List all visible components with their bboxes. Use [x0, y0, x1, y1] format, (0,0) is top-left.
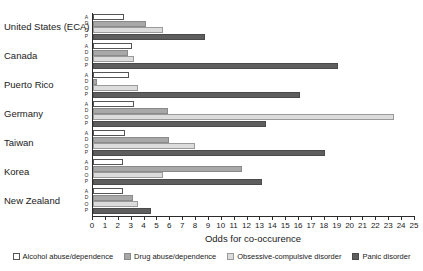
bar-row [93, 21, 415, 27]
subcategory-label-o: O [82, 85, 91, 91]
bar-row [93, 114, 415, 120]
bar [93, 92, 300, 98]
bar-row [93, 101, 415, 107]
x-tick [208, 216, 209, 220]
x-tick [285, 216, 286, 220]
bar-row [93, 43, 415, 49]
x-tick [234, 216, 235, 220]
x-tick [362, 216, 363, 220]
x-tick [195, 216, 196, 220]
subcategory-label-a: A [82, 72, 91, 78]
bar [93, 34, 205, 40]
subcategory-label-o: O [82, 56, 91, 62]
bar-row [93, 85, 415, 91]
x-tick [298, 216, 299, 220]
bar [93, 201, 138, 207]
x-tick [247, 216, 248, 220]
bar-row [93, 34, 415, 40]
subcategory-label-p: P [82, 149, 91, 155]
subcategory-label-d: D [82, 194, 91, 200]
bar-row [93, 56, 415, 62]
bar-row [93, 137, 415, 143]
bar [93, 63, 338, 69]
bar [93, 143, 195, 149]
bar-row [93, 159, 415, 165]
legend-label: Alcohol abuse/dependence [23, 252, 114, 261]
subcategory-label-a: A [82, 130, 91, 136]
subcategory-label-o: O [82, 27, 91, 33]
bar-row [93, 166, 415, 172]
bar-row [93, 195, 415, 201]
subcategory-label-a: A [82, 101, 91, 107]
category-label: Taiwan [4, 137, 90, 148]
bar [93, 121, 266, 127]
x-tick [182, 216, 183, 220]
subcategory-label-d: D [82, 20, 91, 26]
bar [93, 72, 129, 78]
subcategory-label-o: O [82, 114, 91, 120]
bar-row [93, 72, 415, 78]
legend-swatch-icon [227, 253, 234, 260]
bar [93, 27, 163, 33]
legend-item: Drug abuse/dependence [124, 252, 216, 261]
bar [93, 208, 151, 214]
legend-item: Alcohol abuse/dependence [13, 252, 114, 261]
subcategory-label-d: D [82, 136, 91, 142]
x-tick [221, 216, 222, 220]
bar [93, 150, 325, 156]
x-tick [401, 216, 402, 220]
legend-item: Panic disorder [352, 252, 410, 261]
x-tick [259, 216, 260, 220]
bar-row [93, 27, 415, 33]
bar-row [93, 108, 415, 114]
x-tick [337, 216, 338, 220]
category-label: Puerto Rico [4, 79, 90, 90]
category-label: Korea [4, 166, 90, 177]
x-tick [144, 216, 145, 220]
category-label: Canada [4, 50, 90, 61]
bar [93, 56, 134, 62]
legend-label: Panic disorder [362, 252, 410, 261]
subcategory-label-d: D [82, 107, 91, 113]
bar [93, 114, 394, 120]
category-label: Germany [4, 108, 90, 119]
category-label: United States (ECA) [4, 21, 90, 32]
subcategory-label-a: A [82, 159, 91, 165]
bar [93, 101, 134, 107]
bar [93, 50, 128, 56]
x-tick [311, 216, 312, 220]
bar-row [93, 201, 415, 207]
subcategory-label-p: P [82, 120, 91, 126]
subcategory-label-d: D [82, 49, 91, 55]
bar-row [93, 121, 415, 127]
x-axis-title: Odds for co-occurence [92, 233, 414, 244]
subcategory-label-p: P [82, 62, 91, 68]
subcategory-label-d: D [82, 78, 91, 84]
x-tick [156, 216, 157, 220]
subcategory-label-o: O [82, 143, 91, 149]
bar [93, 14, 124, 20]
subcategory-label-o: O [82, 172, 91, 178]
bar-row [93, 179, 415, 185]
subcategory-label-p: P [82, 33, 91, 39]
bar [93, 79, 97, 85]
bar [93, 137, 169, 143]
bar-row [93, 143, 415, 149]
subcategory-label-p: P [82, 207, 91, 213]
legend-swatch-icon [124, 253, 131, 260]
bar [93, 188, 123, 194]
bar [93, 108, 168, 114]
bar-row [93, 188, 415, 194]
chart-legend: Alcohol abuse/dependenceDrug abuse/depen… [0, 252, 423, 261]
bar [93, 43, 132, 49]
category-label: New Zealand [4, 195, 90, 206]
bar [93, 166, 242, 172]
subcategory-label-a: A [82, 14, 91, 20]
bar [93, 130, 125, 136]
x-tick [272, 216, 273, 220]
x-tick [388, 216, 389, 220]
bar [93, 172, 163, 178]
legend-swatch-icon [352, 253, 359, 260]
x-tick [105, 216, 106, 220]
bar-row [93, 79, 415, 85]
